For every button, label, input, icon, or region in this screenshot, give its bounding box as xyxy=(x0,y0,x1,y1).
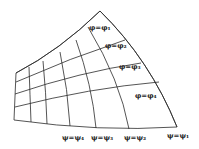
psi-label-3: ψ=ψ₃ xyxy=(91,133,113,142)
phi-label-2: φ=φ₂ xyxy=(105,41,127,50)
phi-label-3: φ=φ₃ xyxy=(119,62,141,71)
psi-label-2: ψ=ψ₂ xyxy=(124,133,146,142)
psi-line-b xyxy=(43,61,47,124)
phi-labels: φ=φ₁ φ=φ₂ φ=φ₃ φ=φ₄ xyxy=(89,23,157,100)
phi-label-1: φ=φ₁ xyxy=(89,23,111,32)
psi-labels: ψ=ψ₄ ψ=ψ₃ ψ=ψ₂ ψ=ψ₁ xyxy=(62,131,189,142)
psi-label-4: ψ=ψ₄ xyxy=(62,133,84,142)
phi-label-4: φ=φ₄ xyxy=(135,91,157,100)
boundary-left xyxy=(14,73,16,120)
phi-line-1 xyxy=(16,11,100,73)
flow-net-diagram: φ=φ₁ φ=φ₂ φ=φ₃ φ=φ₄ ψ=ψ₄ ψ=ψ₃ ψ=ψ₂ ψ=ψ₁ xyxy=(0,0,199,149)
boundary-top xyxy=(16,11,100,73)
psi-label-1: ψ=ψ₁ xyxy=(167,131,189,140)
